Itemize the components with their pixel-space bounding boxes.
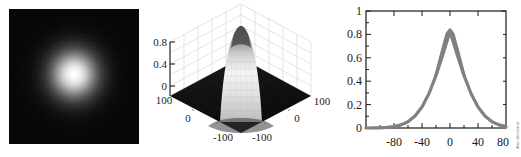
x-tick-label-0: 0 bbox=[447, 135, 453, 149]
z-tick-label-0: 0.8 bbox=[153, 36, 167, 48]
x-tick-label-m40: -40 bbox=[414, 135, 430, 149]
surface-plot-svg: 0.8 0.4 0 100 0 -100 -100 0 100 bbox=[150, 0, 340, 157]
illustration-credit: Alan Blinchfeld bbox=[516, 122, 520, 149]
z-tick-label-1: 0.4 bbox=[153, 58, 167, 70]
y-tick-label-04: 0.4 bbox=[347, 74, 362, 88]
x-tick-label-m80: -80 bbox=[386, 135, 402, 149]
panel-grayscale-image bbox=[0, 0, 150, 157]
y-tick-label-m100: -100 bbox=[252, 131, 273, 143]
z-tick-label-2: 0 bbox=[162, 80, 168, 92]
profile-plot-svg: 1 0.8 0.6 0.4 0.2 0 -80 -40 0 40 80 bbox=[340, 0, 521, 157]
gaussian-intensity-map bbox=[9, 9, 139, 144]
y-tick-label-08: 0.8 bbox=[347, 27, 362, 41]
y-tick-label-02: 0.2 bbox=[347, 98, 362, 112]
x-tick-label-80: 80 bbox=[497, 135, 509, 149]
x-tick-label-0: 0 bbox=[185, 112, 191, 124]
z-axis bbox=[170, 42, 175, 96]
panel-profile-plot: 1 0.8 0.6 0.4 0.2 0 -80 -40 0 40 80 Alan… bbox=[340, 0, 521, 157]
image-noise-overlay bbox=[9, 9, 139, 144]
y-tick-label-06: 0.6 bbox=[347, 51, 362, 65]
x-tick-label-100: 100 bbox=[156, 94, 173, 106]
y-tick-label-0: 0 bbox=[356, 121, 362, 135]
panel-surface-plot: 0.8 0.4 0 100 0 -100 -100 0 100 bbox=[150, 0, 340, 157]
y-tick-label-100: 100 bbox=[314, 95, 331, 107]
x-tick-label-40: 40 bbox=[472, 135, 484, 149]
three-panel-gaussian-figure: 0.8 0.4 0 100 0 -100 -100 0 100 bbox=[0, 0, 521, 157]
gaussian-curve bbox=[366, 32, 506, 129]
y-tick-label-0: 0 bbox=[294, 112, 300, 124]
y-tick-label-1: 1 bbox=[356, 4, 362, 18]
x-tick-label-m100: -100 bbox=[213, 131, 234, 143]
